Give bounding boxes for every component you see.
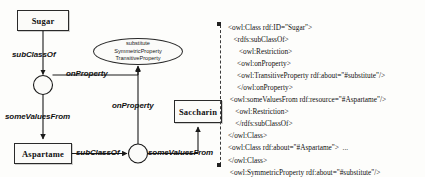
divider-cap-bottom-icon xyxy=(217,163,221,167)
class-node-sugar[interactable]: Sugar xyxy=(17,10,69,31)
xml-line: </owl:Class> xyxy=(228,155,424,167)
xml-line: <owl:Restriction> xyxy=(228,46,424,58)
figure-container: Sugar Aspartame Saccharin substitute Sym… xyxy=(0,0,425,177)
divider-cap-top-icon xyxy=(217,22,221,26)
xml-line: <owl:Class rdf:ID="Sugar"> xyxy=(228,22,424,34)
xml-line: </owl:Class> xyxy=(228,130,424,142)
property-node-line-2: SymmetricProperty xyxy=(114,48,162,55)
xml-line: </rdfs:subClassOf> xyxy=(228,118,424,130)
class-node-saccharin[interactable]: Saccharin xyxy=(174,100,222,123)
xml-line: </owl:onProperty> xyxy=(228,82,424,94)
owl-xml-listing: <owl:Class rdf:ID="Sugar"> <rdfs:subClas… xyxy=(228,22,424,177)
xml-line: <rdfs:subClassOf> xyxy=(228,34,424,46)
edge-label-subclassof-sugar: subClassOf xyxy=(12,50,55,59)
property-node-line-3: TransitiveProperty xyxy=(115,55,160,62)
xml-line: <owl:onProperty> xyxy=(228,58,424,70)
edge-label-onproperty-top: onProperty xyxy=(66,69,108,78)
edge-label-subclassof-aspartame: subClassOf xyxy=(76,148,119,157)
edge-label-somevaluesfrom-left: someValuesFrom xyxy=(5,112,70,121)
property-node-substitute[interactable]: substitute SymmetricProperty TransitiveP… xyxy=(93,38,183,65)
edge-label-somevaluesfrom-bottom: someValuesFrom xyxy=(148,148,213,157)
restriction-node-1 xyxy=(34,76,53,95)
xml-line: <owl:TransitiveProperty rdf:about="#subs… xyxy=(228,70,424,82)
restriction-node-2 xyxy=(129,144,148,163)
class-node-aspartame[interactable]: Aspartame xyxy=(14,143,72,164)
edge-label-onproperty-bottom: onProperty xyxy=(112,101,154,110)
property-node-line-1: substitute xyxy=(126,40,150,47)
panel-divider xyxy=(220,25,221,165)
xml-line: <owl:someValuesFrom rdf:resource="#Aspar… xyxy=(228,94,424,106)
xml-line: <owl:SymmetricProperty rdf:about="#subst… xyxy=(228,167,424,177)
xml-line: <owl:Class rdf:about="#Aspartame"> ... xyxy=(228,142,424,154)
xml-line: <owl:Restriction> xyxy=(228,106,424,118)
